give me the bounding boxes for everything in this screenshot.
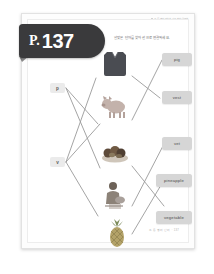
instruction-text: 알맞은 단어를 찾아 선으로 연결하세요.: [114, 35, 170, 40]
word-chip-vet[interactable]: vet: [162, 137, 192, 150]
word-chip-vest[interactable]: vest: [162, 91, 192, 104]
word-chip-pig[interactable]: pig: [162, 53, 192, 66]
line-pic-word-5: [132, 180, 164, 234]
worksheet-page: 초등 영어 파닉스 기초 학습 워크북: [21, 13, 195, 249]
line-p-1: [66, 88, 98, 124]
vegetable-image[interactable]: [100, 138, 130, 168]
word-chip-pineapple-label: pineapple: [164, 178, 184, 183]
word-chip-vegetable[interactable]: vegetable: [156, 211, 192, 224]
letter-chip-v-label: v: [56, 160, 59, 165]
pineapple-image[interactable]: [102, 218, 132, 248]
page-tab-number: 137: [42, 30, 74, 53]
page-footer: 초등 영어 단어 · 137: [149, 228, 179, 232]
line-pic-word-1: [132, 76, 160, 98]
vet-image[interactable]: [100, 180, 130, 210]
letter-chip-p[interactable]: p: [50, 83, 65, 93]
word-chip-pig-label: pig: [174, 57, 180, 62]
word-chip-vegetable-label: vegetable: [164, 215, 184, 220]
line-v-2: [66, 162, 98, 216]
word-chip-vest-label: vest: [173, 95, 181, 100]
letter-chip-v[interactable]: v: [50, 157, 65, 167]
page-number-tab: P. 137: [19, 24, 105, 58]
vest-image[interactable]: [100, 48, 130, 78]
word-chip-vet-label: vet: [174, 141, 180, 146]
line-pic-word-2: [132, 60, 162, 120]
page-tab-prefix: P.: [29, 33, 40, 49]
line-v-1: [66, 78, 96, 162]
letter-chip-p-label: p: [56, 86, 59, 91]
word-chip-pineapple[interactable]: pineapple: [156, 174, 192, 187]
pig-image[interactable]: [100, 92, 130, 122]
screenshot-root: 초등 영어 파닉스 기초 학습 워크북: [0, 0, 214, 274]
